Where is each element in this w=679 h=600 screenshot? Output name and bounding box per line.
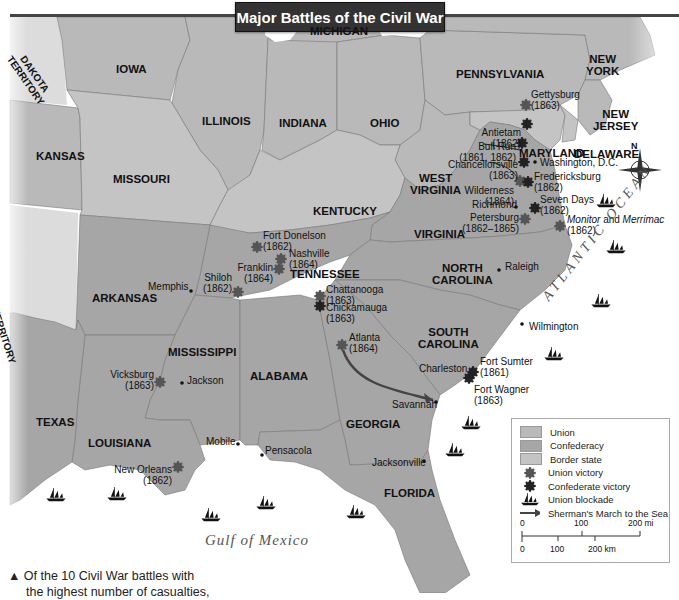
iowa (57, 17, 190, 100)
state-label-alabama: ALABAMA (250, 370, 308, 382)
state-label-florida: FLORIDA (384, 487, 435, 499)
legend-label: Confederacy (550, 440, 604, 451)
state-label-michigan: MICHIGAN (310, 25, 368, 37)
battle-name: Chickamauga (326, 303, 387, 314)
battle-name: Petersburg (462, 213, 519, 224)
city-dot-icon (236, 442, 240, 446)
city-label: Charleston (419, 364, 467, 375)
battle-year: (1864) (465, 197, 514, 208)
union-victory-icon (336, 339, 348, 351)
legend-swatch (520, 440, 542, 452)
scale-km-200: 200 km (588, 545, 616, 554)
state-label-north-carolina: NORTH CAROLINA (432, 262, 493, 286)
battle-label: Gettysburg(1863) (531, 90, 580, 111)
city-label: Washington, D.C. (540, 158, 618, 169)
state-label-new-york: NEW YORK (586, 53, 619, 77)
union-victory-icon (154, 376, 166, 388)
battle-year: (1863) (448, 171, 518, 182)
battle-label: Petersburg(1862–1865) (462, 213, 519, 234)
battle-label: Fredericksburg(1862) (534, 172, 601, 193)
ship-icon (520, 494, 540, 506)
battle-name: New Orleans (114, 465, 172, 476)
battle-name: Nashville (289, 249, 330, 260)
battle-name: Shiloh (203, 273, 232, 284)
battle-year: (1863) (474, 396, 529, 407)
battle-name: Franklin (237, 263, 273, 274)
legend-item: Confederate victory (520, 479, 630, 493)
state-label-virginia: VIRGINIA (414, 228, 465, 240)
battle-name: Gettysburg (531, 90, 580, 101)
legend-label: Union (550, 427, 575, 438)
union-victory-icon (172, 461, 184, 473)
city-label: Savannah (392, 400, 437, 411)
state-label-mississippi: MISSISSIPPI (168, 346, 236, 358)
scale-mi-100: 100 (574, 519, 588, 528)
battle-name: Vicksburg (110, 370, 154, 381)
city-dot-icon (533, 160, 537, 164)
battle-label: New Orleans(1862) (114, 465, 172, 486)
battle-label: Atlanta(1864) (349, 333, 380, 354)
battle-label: Vicksburg(1863) (110, 370, 154, 391)
battle-label: Nashville(1864) (289, 249, 330, 270)
battle-name: Chattanooga (326, 285, 383, 296)
map-legend: UnionConfederacyBorder stateUnion victor… (511, 418, 670, 563)
confederate-victory-icon (314, 300, 326, 312)
legend-item: Border state (520, 452, 602, 466)
legend-swatch (520, 453, 542, 465)
battle-year: (1862) (114, 476, 172, 487)
state-label-arkansas: ARKANSAS (92, 292, 157, 304)
battle-label: Fort Wagner(1863) (474, 385, 529, 406)
battle-label: Shiloh(1862) (203, 273, 232, 294)
city-dot-icon (189, 289, 193, 293)
union-victory-icon (251, 241, 263, 253)
state-label-missouri: MISSOURI (113, 173, 170, 185)
battle-label: Wilderness(1864) (465, 186, 514, 207)
legend-label: Sherman's March to the Sea (548, 508, 668, 519)
battle-year: (1862) (567, 226, 664, 237)
gulf-of-mexico-label: Gulf of Mexico (205, 533, 309, 549)
legend-item: Union victory (520, 466, 603, 480)
city-label: Pensacola (265, 446, 312, 457)
battle-name: Antietam (482, 128, 521, 139)
battle-year: (1864) (237, 274, 273, 285)
battle-name: Chancellorsville (448, 160, 518, 171)
city-label: Raleigh (505, 262, 539, 273)
battle-name: Wilderness (465, 186, 514, 197)
city-dot-icon (180, 381, 184, 385)
state-label-iowa: IOWA (116, 63, 147, 75)
confederate-victory-icon (521, 118, 533, 130)
battle-year: (1862) (534, 183, 601, 194)
legend-label: Union blockade (548, 494, 614, 505)
city-label: Jackson (187, 376, 224, 387)
city-dot-icon (520, 322, 524, 326)
battle-label: Franklin(1864) (237, 263, 273, 284)
state-label-louisiana: LOUISIANA (88, 437, 151, 449)
state-label-kentucky: KENTUCKY (313, 205, 377, 217)
union-victory-icon (275, 253, 287, 265)
battle-label: Fort Sumter(1861) (480, 357, 533, 378)
confederate-victory-icon (520, 480, 540, 492)
battle-name: Fort Wagner (474, 385, 529, 396)
state-label-indiana: INDIANA (279, 117, 327, 129)
city-label: Jacksonville (372, 458, 426, 469)
battle-name: Fort Donelson (263, 231, 326, 242)
legend-swatch (520, 426, 542, 438)
battle-name: Bull Run (459, 142, 516, 153)
state-label-kansas: KANSAS (36, 150, 85, 162)
city-dot-icon (260, 453, 264, 457)
state-label-pennsylvania: PENNSYLVANIA (456, 68, 544, 80)
battle-year: (1864) (289, 260, 330, 271)
confederate-victory-icon (522, 176, 534, 188)
state-label-ohio: OHIO (370, 117, 399, 129)
battle-name: Seven Days (540, 195, 594, 206)
scale-mi-0: 0 (520, 519, 525, 528)
union-victory-icon (273, 263, 285, 275)
union-victory-icon (519, 213, 531, 225)
scale-mi-200: 200 mi (628, 519, 654, 528)
state-label-illinois: ILLINOIS (202, 115, 251, 127)
legend-label: Border state (550, 454, 602, 465)
battle-year: (1863) (531, 101, 580, 112)
compass-north-label: N (631, 142, 638, 151)
legend-item: Union blockade (520, 493, 614, 507)
battle-year: (1862) (203, 284, 232, 295)
